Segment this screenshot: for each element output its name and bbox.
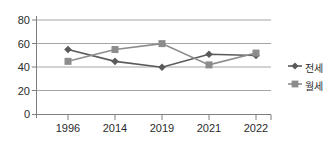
square-marker-icon <box>112 46 119 53</box>
x-axis-tick-label-2022: 2022 <box>236 122 276 134</box>
x-axis-tick-label-1996: 1996 <box>48 122 88 134</box>
diamond-marker-icon <box>291 62 298 69</box>
square-marker-icon <box>65 58 72 65</box>
legend-item-label-jeonse: 전세 <box>305 60 323 75</box>
diamond-marker-icon <box>111 58 119 66</box>
x-axis-tick-label-2021: 2021 <box>189 122 229 134</box>
square-marker-icon <box>159 40 166 47</box>
y-axis-ticks <box>32 20 36 115</box>
square-marker-icon <box>206 61 213 68</box>
diamond-marker-icon <box>64 46 72 54</box>
x-axis-ticks <box>68 115 271 121</box>
series-layer <box>64 40 260 71</box>
diamond-marker-icon <box>205 50 213 58</box>
x-axis-tick-label-2014: 2014 <box>95 122 135 134</box>
x-axis-tick-label-2019: 2019 <box>142 122 182 134</box>
square-marker-icon <box>292 81 299 88</box>
legend-markers <box>288 62 302 87</box>
legend-item-label-wolse: 월세 <box>305 78 323 93</box>
line-chart-figure: 80 60 40 20 0 <box>0 0 334 151</box>
square-marker-icon <box>253 50 260 57</box>
diamond-marker-icon <box>158 63 166 71</box>
